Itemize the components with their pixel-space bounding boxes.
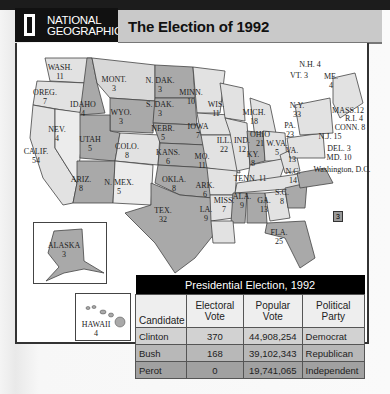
electoral-cell: 168 bbox=[186, 345, 244, 362]
logo-line2: GEOGRAPHIC bbox=[47, 25, 122, 37]
candidate-cell: Perot bbox=[136, 362, 187, 379]
state-label-fla: FLA.25 bbox=[270, 228, 287, 246]
callout-conn: CONN. 8 bbox=[335, 123, 366, 132]
state-label-tenn: TENN. 11 bbox=[233, 174, 266, 183]
state-label-minn: MINN.10 bbox=[179, 88, 202, 106]
callout-vt: VT. 3 bbox=[290, 71, 308, 80]
popular-cell: 39,102,343 bbox=[244, 345, 302, 362]
state-label-oreg: OREG.7 bbox=[33, 88, 57, 106]
logo-yellow-border-icon bbox=[24, 14, 35, 36]
state-label-colo: COLO.8 bbox=[115, 142, 139, 160]
candidate-cell: Clinton bbox=[136, 328, 187, 345]
state-label-okla: OKLA.8 bbox=[162, 175, 186, 193]
state-label-wis: WIS.11 bbox=[208, 100, 225, 118]
state-label-nmex: N. MEX.5 bbox=[104, 178, 134, 196]
candidate-cell: Bush bbox=[136, 345, 187, 362]
state-label-sdak: S. DAK.3 bbox=[146, 100, 174, 118]
state-label-ark: ARK.6 bbox=[196, 181, 215, 199]
state-label-tex: TEX.32 bbox=[154, 206, 172, 224]
party-cell: Democrat bbox=[302, 328, 364, 345]
dc-votes-box: 3 bbox=[333, 211, 343, 222]
state-label-nev: NEV.4 bbox=[48, 125, 65, 143]
page-title: The Election of 1992 bbox=[128, 18, 269, 35]
state-label-ala: ALA.9 bbox=[233, 192, 251, 210]
electoral-cell: 0 bbox=[186, 362, 244, 379]
header-electoral: Electoral Vote bbox=[186, 295, 244, 328]
state-label-wyo: WYO.3 bbox=[110, 108, 131, 126]
state-label-ky: KY.8 bbox=[247, 150, 260, 168]
state-label-wva: W.VA.5 bbox=[266, 139, 287, 157]
state-label-mo: MO.11 bbox=[195, 152, 210, 170]
hawaii-inset: HAWAII4 bbox=[75, 293, 131, 341]
table-row: Clinton 370 44,908,254 Democrat bbox=[136, 328, 365, 345]
state-label-ariz: ARIZ.8 bbox=[71, 175, 92, 193]
header: NATIONAL GEOGRAPHIC The Election of 1992 bbox=[15, 8, 382, 43]
results-table: Presidential Election, 1992 Candidate El… bbox=[135, 275, 365, 383]
state-label-kans: KANS.6 bbox=[156, 148, 180, 166]
callout-dc: Washington, D.C. bbox=[313, 165, 370, 174]
title-band: The Election of 1992 bbox=[118, 10, 382, 44]
state-label-pa: PA.23 bbox=[284, 121, 296, 139]
popular-cell: 44,908,254 bbox=[244, 328, 302, 345]
state-label-ny: N.Y.33 bbox=[290, 101, 305, 119]
callout-ri: R.I. 4 bbox=[345, 114, 363, 123]
state-label-mont: MONT.3 bbox=[102, 75, 127, 93]
state-label-la: LA.9 bbox=[200, 205, 213, 223]
alaska-label: ALASKA3 bbox=[48, 241, 80, 259]
callout-nh: N.H. 4 bbox=[299, 60, 321, 69]
callout-md: MD. 10 bbox=[327, 153, 352, 162]
electoral-cell: 370 bbox=[186, 328, 244, 345]
state-label-sc: S.C.8 bbox=[275, 188, 289, 206]
header-popular: Popular Vote bbox=[244, 295, 302, 328]
state-label-mich: MICH.18 bbox=[243, 108, 266, 126]
table-row: Perot 0 19,741,065 Independent bbox=[136, 362, 365, 379]
state-label-nc: N.C.14 bbox=[285, 167, 300, 185]
hawaii-label: HAWAII4 bbox=[82, 320, 111, 338]
callout-nj: N.J. 15 bbox=[319, 132, 342, 141]
state-label-calif: CALIF.54 bbox=[24, 147, 48, 165]
state-label-wash: WASH.11 bbox=[48, 63, 73, 81]
state-label-me: ME.4 bbox=[324, 72, 338, 90]
alaska-inset: ALASKA3 bbox=[33, 222, 107, 284]
state-label-idaho: IDAHO4 bbox=[70, 100, 96, 118]
state-label-iowa: IOWA7 bbox=[188, 122, 209, 140]
callout-del: DEL. 3 bbox=[327, 144, 351, 153]
national-geographic-logo: NATIONAL GEOGRAPHIC bbox=[15, 8, 118, 42]
header-party: Political Party bbox=[302, 295, 364, 328]
state-label-ndak: N. DAK.3 bbox=[145, 76, 174, 94]
party-cell: Republican bbox=[302, 345, 364, 362]
popular-cell: 19,741,065 bbox=[244, 362, 302, 379]
table-row: Bush 168 39,102,343 Republican bbox=[136, 345, 365, 362]
header-candidate: Candidate bbox=[136, 295, 187, 328]
state-label-miss: MISS.7 bbox=[214, 196, 235, 214]
table-caption: Presidential Election, 1992 bbox=[136, 275, 365, 295]
state-label-utah: UTAH5 bbox=[79, 135, 101, 153]
party-cell: Independent bbox=[302, 362, 364, 379]
state-label-ga: GA.13 bbox=[257, 196, 271, 214]
state-label-nebr: NEBR.5 bbox=[151, 124, 174, 142]
state-label-ill: ILL.22 bbox=[217, 136, 231, 154]
